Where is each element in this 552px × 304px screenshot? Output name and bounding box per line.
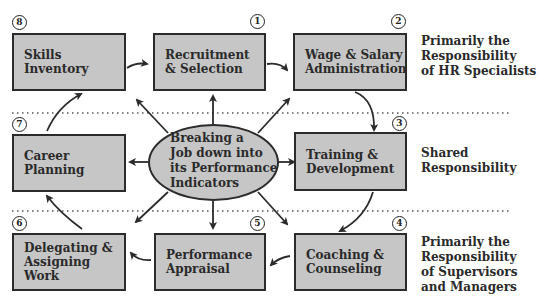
box-label: Performance Appraisal [156,248,252,276]
arrow-5-to-6 [131,253,151,260]
box-label: Training & Development [296,148,394,176]
step-number-badge: 6 [12,216,27,231]
arrow-4-to-5 [271,256,290,265]
box-label: Wage & Salary Administration [295,48,406,76]
box-career-planning: Career Planning [12,134,126,192]
band-label-shared: Shared Responsibility [421,146,516,176]
band-label-hr-specialists: Primarily the Responsibility of HR Speci… [421,34,536,79]
arrow-center-to-2 [258,99,289,133]
band-label-supervisors-managers: Primarily the Responsibility of Supervis… [421,235,517,295]
box-recruitment-selection: Recruitment & Selection [153,33,266,91]
box-performance-appraisal: Performance Appraisal [154,233,266,291]
step-number-badge: 2 [391,14,406,29]
step-number-badge: 5 [250,216,265,231]
step-number-badge: 3 [392,116,407,131]
box-training-development: Training & Development [294,132,407,191]
arrow-center-to-8 [137,100,168,133]
box-wage-salary-administration: Wage & Salary Administration [293,33,407,91]
step-number-badge: 8 [12,15,27,30]
arrow-2-to-3 [355,92,374,130]
box-skills-inventory: Skills Inventory [12,33,126,91]
box-label: Skills Inventory [14,48,89,76]
box-label: Career Planning [14,149,84,177]
step-number-badge: 4 [392,216,407,231]
box-label: Recruitment & Selection [155,48,250,76]
arrow-6-to-7 [47,196,82,229]
box-label: Coaching & Counseling [296,248,384,276]
center-label: Breaking a Job down into its Performance… [170,131,277,191]
arrow-1-to-2 [267,64,287,70]
box-coaching-counseling: Coaching & Counseling [294,233,407,291]
arrow-center-to-6 [136,192,168,222]
step-number-badge: 7 [12,117,27,132]
box-label: Delegating & Assigning Work [14,241,124,283]
arrow-8-to-1 [127,64,147,69]
box-delegating-assigning-work: Delegating & Assigning Work [12,233,126,291]
step-number-badge: 1 [250,14,265,29]
